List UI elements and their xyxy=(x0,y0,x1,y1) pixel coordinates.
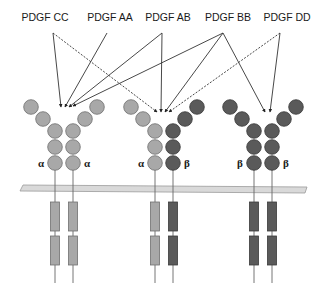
ig-domain-4 xyxy=(247,140,262,155)
subunit-label-left: α xyxy=(38,157,45,169)
ig-domain-2 xyxy=(78,112,93,127)
ig-domain-4 xyxy=(265,140,280,155)
ig-domain-5 xyxy=(148,156,163,171)
kinase-domain-2 xyxy=(250,236,259,265)
ligand-label-dd: PDGF DD xyxy=(263,11,311,23)
arrow-cc-0 xyxy=(53,33,61,107)
subunit-label-right: α xyxy=(84,157,91,169)
kinase-domain-1 xyxy=(268,202,277,231)
cell-membrane xyxy=(20,185,307,193)
kinase-domain-2 xyxy=(169,236,178,265)
subunit-label-left: β xyxy=(237,157,243,169)
kinase-domain-2 xyxy=(151,236,160,265)
ligand-label-aa: PDGF AA xyxy=(87,11,133,23)
ig-domain-2 xyxy=(178,112,193,127)
subunit-label-left: α xyxy=(138,157,145,169)
ig-domain-3 xyxy=(247,124,262,139)
kinase-domain-1 xyxy=(69,202,78,231)
kinase-domain-1 xyxy=(151,202,160,231)
arrow-ab-4 xyxy=(161,33,162,112)
arrow-dd-9 xyxy=(270,33,280,112)
ligand-label-ab: PDGF AB xyxy=(145,11,191,23)
ig-domain-3 xyxy=(148,124,163,139)
ig-domain-5 xyxy=(247,156,262,171)
kinase-domain-2 xyxy=(268,236,277,265)
subunit-label-right: β xyxy=(283,157,289,169)
arrow-aa-2 xyxy=(65,33,107,107)
ig-domain-3 xyxy=(166,124,181,139)
ig-domain-4 xyxy=(166,140,181,155)
ig-domain-4 xyxy=(48,140,63,155)
arrow-ab-3 xyxy=(69,33,162,107)
ig-domain-2 xyxy=(136,112,151,127)
ig-domain-1 xyxy=(24,100,39,115)
ig-domain-1 xyxy=(289,100,304,115)
binding-arrows xyxy=(53,33,280,112)
ig-domain-2 xyxy=(36,112,51,127)
subunit-label-right: β xyxy=(184,157,190,169)
ligand-label-cc: PDGF CC xyxy=(21,11,69,23)
ig-domain-4 xyxy=(148,140,163,155)
ig-domain-5 xyxy=(265,156,280,171)
ig-domain-1 xyxy=(223,100,238,115)
ig-domain-5 xyxy=(48,156,63,171)
pdgf-diagram: PDGF CCPDGF AAPDGF ABPDGF BBPDGF DD αααβ… xyxy=(0,0,323,297)
ig-domain-1 xyxy=(90,100,105,115)
ligand-labels: PDGF CCPDGF AAPDGF ABPDGF BBPDGF DD xyxy=(21,11,311,23)
ig-domain-3 xyxy=(265,124,280,139)
kinase-domain-1 xyxy=(250,202,259,231)
kinase-domain-2 xyxy=(69,236,78,265)
membrane-band xyxy=(20,185,307,193)
ig-domain-1 xyxy=(190,100,205,115)
ligand-label-bb: PDGF BB xyxy=(205,11,251,23)
ig-domain-2 xyxy=(235,112,250,127)
ig-domain-5 xyxy=(66,156,81,171)
ig-domain-2 xyxy=(277,112,292,127)
kinase-domain-1 xyxy=(51,202,60,231)
kinase-domain-2 xyxy=(51,236,60,265)
ig-domain-3 xyxy=(48,124,63,139)
ig-domain-3 xyxy=(66,124,81,139)
ig-domain-5 xyxy=(166,156,181,171)
ig-domain-1 xyxy=(124,100,139,115)
ig-domain-4 xyxy=(66,140,81,155)
kinase-domain-1 xyxy=(169,202,178,231)
arrow-dd-8 xyxy=(169,33,280,112)
